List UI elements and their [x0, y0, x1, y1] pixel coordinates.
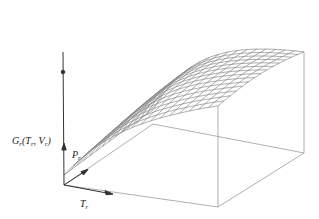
- mesh-line-p: [121, 66, 273, 132]
- z-axis-label: Gr(Tr, Vr): [12, 136, 51, 148]
- p-axis-arrow-icon: [81, 169, 88, 175]
- bounding-box: [64, 52, 304, 207]
- z-axis-arrow-icon: [62, 143, 66, 150]
- surface-plot: [0, 0, 319, 219]
- surface-mesh: [64, 49, 304, 175]
- axes: [61, 52, 113, 195]
- box-edge: [218, 153, 304, 207]
- p-axis-label: Pr: [72, 150, 81, 162]
- t-axis: [64, 185, 112, 194]
- mesh-line-p: [115, 70, 267, 138]
- t-axis-label: Tr: [80, 199, 88, 211]
- z-axis-marker-dot: [61, 70, 65, 74]
- box-edge: [153, 124, 304, 153]
- mesh-line-p: [64, 106, 218, 175]
